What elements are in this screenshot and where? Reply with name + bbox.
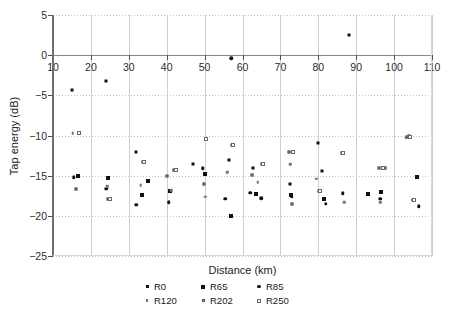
x-axis-title-text: Distance (km) [209,264,277,276]
data-point-R250 [291,150,295,154]
data-point-R250 [142,160,146,164]
plot-area: 10203040506070809010011050−5−10−15−20−25 [53,15,432,256]
data-point-R250 [231,143,235,147]
y-axis-spine [52,15,54,256]
data-point-R250 [174,168,178,172]
legend-label-R120: R120 [154,295,177,306]
data-point-R0 [321,169,324,172]
plot-frame-bottom [53,255,432,256]
marker-glyph [257,299,261,303]
scatter-plot-figure: Tap energy (dB) 102030405060708090100110… [0,0,450,318]
data-point-R120 [315,178,318,181]
data-point-R65 [415,175,419,179]
plot-frame-right [431,15,432,256]
y-gridline [53,15,432,16]
data-point-R85 [72,176,76,180]
x-axis-tick-label: 60 [237,62,249,73]
legend-marker-R65-icon [197,282,209,292]
legend-item-R120[interactable]: R120 [141,295,197,306]
legend-marker-R120-icon [141,296,153,306]
y-axis-tick-label: −15 [29,170,47,181]
y-axis-tick-label: −10 [29,130,47,141]
data-point-R85 [290,195,294,199]
data-point-R85 [341,192,345,196]
data-point-R85 [417,204,421,208]
y-axis-tick-label: 0 [41,50,47,61]
x-axis-tick [205,55,206,60]
legend-marker-R202-icon [197,296,209,306]
data-point-R250 [318,189,322,193]
x-axis-title: Distance (km) [53,264,432,276]
x-axis-tick [432,55,433,60]
data-point-R0 [105,79,108,82]
legend-marker-R250-icon [253,296,265,306]
data-point-R202 [250,173,253,176]
data-point-R65 [379,190,383,194]
x-axis-tick-label: 40 [161,62,173,73]
legend-item-R202[interactable]: R202 [197,295,253,306]
x-axis-tick-label: 110 [424,62,441,73]
x-axis-tick [318,55,319,60]
y-axis-title: Tap energy (dB) [6,15,22,256]
data-point-R85 [167,200,171,204]
data-point-R0 [192,163,195,166]
legend-label-R250: R250 [266,295,289,306]
data-point-R250 [204,137,208,141]
data-point-R65 [322,197,326,201]
data-point-R65 [366,192,370,196]
data-point-R0 [252,167,255,170]
data-point-R120 [106,185,109,188]
x-axis-tick-label: 100 [385,62,403,73]
x-axis-tick [356,55,357,60]
y-gridline [53,216,432,217]
data-point-R120 [71,132,74,135]
legend-row: R0R65R85 [141,281,309,292]
y-axis-tick-label: −5 [35,90,47,101]
y-axis-tick-label: −25 [29,251,47,262]
data-point-R65 [229,214,233,218]
x-axis-tick [167,55,168,60]
data-point-R120 [204,195,207,198]
marker-glyph [146,299,149,302]
data-point-R0 [347,34,350,37]
legend-item-R85[interactable]: R85 [253,281,309,292]
y-axis-tick-label: −20 [29,211,47,222]
data-point-R65 [146,179,150,183]
data-point-R250 [77,131,81,135]
data-point-R120 [256,181,259,184]
data-point-R202 [290,202,293,205]
data-point-R0 [228,158,231,161]
data-point-R120 [170,189,173,192]
legend-row: R120R202R250 [141,295,309,306]
data-point-R202 [202,182,205,185]
x-axis-tick-label: 90 [350,62,362,73]
data-point-R250 [412,198,416,202]
legend-item-R250[interactable]: R250 [253,295,309,306]
marker-glyph [202,299,205,302]
data-point-R120 [289,163,292,166]
data-point-R250 [341,151,345,155]
data-point-R202 [165,174,168,177]
data-point-R85 [229,57,233,61]
data-point-R85 [224,197,228,201]
x-gridline [432,15,433,256]
y-gridline [53,256,432,257]
data-point-R202 [74,187,77,190]
legend-item-R65[interactable]: R65 [197,281,253,292]
x-axis-tick-label: 80 [312,62,324,73]
marker-glyph [201,285,205,289]
data-point-R250 [261,162,265,166]
legend-item-R0[interactable]: R0 [141,281,197,292]
data-point-R85 [260,196,264,200]
y-gridline [53,95,432,96]
x-axis-tick [91,55,92,60]
data-point-R120 [343,201,346,204]
legend-marker-R0-icon [141,282,153,292]
x-axis-tick [243,55,244,60]
data-point-R120 [379,201,382,204]
legend-label-R85: R85 [266,281,283,292]
data-point-R65 [76,174,80,178]
data-point-R0 [317,141,320,144]
x-axis-tick-label: 30 [123,62,135,73]
legend-label-R65: R65 [210,281,227,292]
